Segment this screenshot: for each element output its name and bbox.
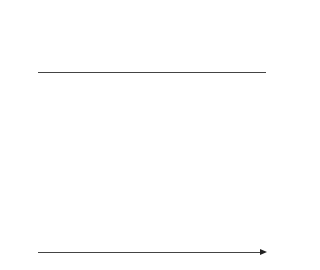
time-arrow-icon <box>260 249 267 255</box>
top-timeline <box>38 72 266 73</box>
time-axis-line <box>38 252 262 253</box>
